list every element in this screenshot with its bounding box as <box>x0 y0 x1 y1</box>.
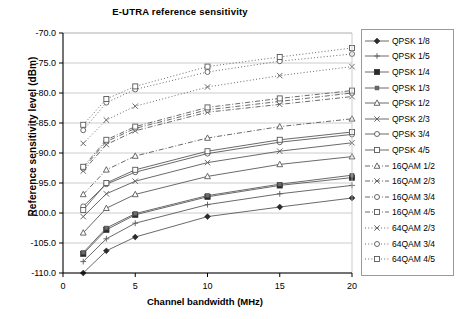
legend-item-64qam-3-4[interactable]: 64QAM 3/4 <box>364 236 451 252</box>
legend-label: 16QAM 2/3 <box>390 176 435 186</box>
x-tick-labels: 05101520 <box>60 281 357 291</box>
y-tick-label: -85.0 <box>35 118 56 128</box>
legend-label: QPSK 3/4 <box>390 129 430 139</box>
series-qpsk-4-5 <box>81 130 355 213</box>
y-tick-label: -80.0 <box>35 88 56 98</box>
legend-marker-icon <box>364 127 390 141</box>
legend-item-64qam-4-5[interactable]: 64QAM 4/5 <box>364 251 451 267</box>
series-64qam-2-3 <box>81 64 355 146</box>
legend-marker-icon <box>364 221 390 235</box>
legend-marker-icon <box>364 143 390 157</box>
y-tick-labels: -70.0-75.0-80.0-85.0-90.0-95.0-100.0-105… <box>30 28 56 278</box>
legend-marker-icon <box>364 159 390 173</box>
legend-label: QPSK 1/3 <box>390 83 430 93</box>
legend-label: QPSK 2/3 <box>390 114 430 124</box>
legend-item-qpsk-1-3[interactable]: QPSK 1/3 <box>364 80 451 96</box>
y-tick-label: -95.0 <box>35 178 56 188</box>
legend-label: QPSK 1/5 <box>390 51 430 61</box>
legend-label: 16QAM 1/2 <box>390 161 435 171</box>
legend-label: QPSK 1/8 <box>390 36 430 46</box>
legend-marker-icon <box>364 190 390 204</box>
legend: QPSK 1/8QPSK 1/5QPSK 1/4QPSK 1/3QPSK 1/2… <box>361 29 454 276</box>
legend-item-16qam-3-4[interactable]: 16QAM 3/4 <box>364 189 451 205</box>
legend-item-qpsk-2-3[interactable]: QPSK 2/3 <box>364 111 451 127</box>
series-qpsk-3-4 <box>81 132 355 209</box>
legend-item-qpsk-1-2[interactable]: QPSK 1/2 <box>364 95 451 111</box>
legend-marker-icon <box>364 81 390 95</box>
legend-marker-icon <box>364 112 390 126</box>
legend-item-qpsk-1-4[interactable]: QPSK 1/4 <box>364 64 451 80</box>
series-qpsk-1-3 <box>81 173 354 254</box>
series-64qam-4-5 <box>81 46 355 128</box>
x-tick-label: 0 <box>60 281 65 291</box>
legend-label: 64QAM 2/3 <box>390 223 435 233</box>
legend-item-16qam-4-5[interactable]: 16QAM 4/5 <box>364 205 451 221</box>
y-tick-label: -110.0 <box>31 268 56 278</box>
legend-marker-icon <box>364 65 390 79</box>
legend-item-qpsk-1-8[interactable]: QPSK 1/8 <box>364 33 451 49</box>
legend-label: QPSK 1/4 <box>390 67 430 77</box>
legend-item-16qam-2-3[interactable]: 16QAM 2/3 <box>364 173 451 189</box>
y-tick-label: -90.0 <box>35 148 56 158</box>
legend-item-qpsk-4-5[interactable]: QPSK 4/5 <box>364 142 451 158</box>
series-16qam-4-5 <box>81 88 355 169</box>
legend-item-16qam-1-2[interactable]: 16QAM 1/2 <box>364 158 451 174</box>
legend-item-qpsk-3-4[interactable]: QPSK 3/4 <box>364 127 451 143</box>
legend-label: QPSK 1/2 <box>390 98 430 108</box>
legend-marker-icon <box>364 174 390 188</box>
x-tick-label: 15 <box>275 281 285 291</box>
legend-label: QPSK 4/5 <box>390 145 430 155</box>
legend-marker-icon <box>364 34 390 48</box>
x-tick-label: 10 <box>202 281 212 291</box>
y-tick-label: -100.0 <box>30 208 56 218</box>
legend-marker-icon <box>364 237 390 251</box>
legend-label: 64QAM 4/5 <box>390 254 435 264</box>
legend-marker-icon <box>364 252 390 266</box>
series-16qam-1-2 <box>80 116 355 197</box>
y-tick-label: -70.0 <box>35 28 56 38</box>
legend-marker-icon <box>364 49 390 63</box>
chart-root: E-UTRA reference sensitivity Reference s… <box>0 0 456 319</box>
series-qpsk-1-8 <box>80 195 355 276</box>
legend-marker-icon <box>364 96 390 110</box>
legend-label: 64QAM 3/4 <box>390 239 435 249</box>
x-tick-label: 5 <box>133 281 138 291</box>
legend-label: 16QAM 3/4 <box>390 192 435 202</box>
y-tick-label: -105.0 <box>30 238 56 248</box>
y-tick-label: -75.0 <box>35 58 56 68</box>
legend-item-qpsk-1-5[interactable]: QPSK 1/5 <box>364 49 451 65</box>
legend-label: 16QAM 4/5 <box>390 207 435 217</box>
legend-item-64qam-2-3[interactable]: 64QAM 2/3 <box>364 220 451 236</box>
series-16qam-3-4 <box>81 91 355 172</box>
series-layer <box>80 46 355 276</box>
x-tick-label: 20 <box>347 281 357 291</box>
legend-marker-icon <box>364 205 390 219</box>
